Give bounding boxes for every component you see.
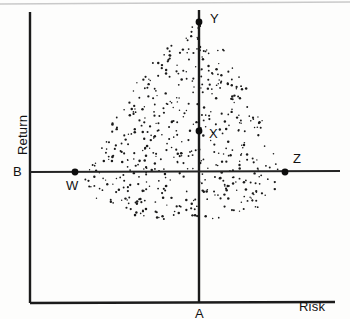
scatter-point: [190, 31, 192, 33]
scatter-point: [129, 114, 132, 117]
scatter-point: [203, 119, 205, 121]
scatter-point: [116, 117, 118, 119]
scatter-point: [182, 162, 184, 164]
scatter-point: [134, 108, 135, 109]
scatter-point: [89, 169, 90, 170]
scatter-point: [95, 163, 96, 164]
scatter-point: [185, 209, 187, 211]
scatter-point: [105, 152, 107, 154]
scatter-point: [116, 126, 118, 128]
scatter-point: [207, 87, 209, 89]
scatter-point: [169, 57, 171, 59]
scatter-point: [205, 190, 208, 193]
scatter-point: [204, 215, 207, 218]
scatter-point: [142, 150, 143, 151]
scatter-point: [168, 126, 170, 128]
scatter-point: [176, 205, 178, 207]
scatter-point: [130, 108, 133, 111]
scatter-point: [144, 200, 146, 202]
scatter-point: [194, 214, 197, 217]
scatter-point: [213, 151, 215, 153]
scatter-point: [164, 189, 166, 191]
scatter-point: [170, 197, 172, 199]
scatter-point: [165, 72, 167, 74]
scatter-point: [174, 211, 176, 213]
scatter-point: [257, 134, 259, 136]
scatter-point: [118, 189, 120, 191]
point-label-z: Z: [293, 152, 301, 165]
scatter-dot-cloud: [84, 25, 278, 220]
scatter-point: [227, 197, 230, 200]
scatter-point: [210, 111, 212, 113]
scatter-point: [141, 125, 143, 127]
scatter-point: [140, 201, 142, 203]
scatter-point: [145, 166, 147, 168]
scatter-point: [90, 186, 92, 188]
scatter-point: [105, 179, 106, 180]
scatter-point: [252, 158, 254, 160]
scatter-point: [136, 203, 138, 205]
scatter-point: [93, 176, 95, 178]
scatter-point: [169, 54, 172, 57]
scatter-point: [102, 189, 104, 191]
scatter-point: [221, 160, 223, 162]
scatter-point: [134, 214, 137, 217]
scatter-point: [217, 194, 219, 196]
scatter-point: [225, 161, 227, 163]
scatter-point: [179, 205, 181, 207]
scatter-point: [121, 143, 123, 145]
scatter-point: [127, 190, 129, 192]
scatter-point: [164, 92, 166, 94]
scatter-point: [255, 206, 257, 208]
scatter-point: [108, 159, 109, 160]
point-markers: [72, 19, 289, 176]
scatter-point: [163, 218, 165, 220]
scatter-point: [246, 153, 248, 155]
scatter-point: [127, 166, 129, 168]
scatter-point: [245, 180, 247, 182]
scatter-point: [238, 164, 240, 166]
scatter-point: [232, 67, 234, 69]
scatter-point: [176, 134, 178, 136]
scatter-point: [187, 39, 189, 41]
scatter-point: [169, 50, 171, 52]
scatter-point: [203, 106, 205, 108]
scatter-point: [192, 168, 194, 170]
scatter-point: [252, 117, 254, 119]
scatter-point: [240, 120, 242, 122]
scatter-point: [257, 116, 258, 117]
scatter-point: [179, 155, 181, 157]
scatter-point: [222, 180, 224, 182]
scatter-point: [150, 139, 152, 141]
scatter-point: [130, 133, 132, 135]
scatter-point: [155, 153, 157, 155]
scatter-point: [173, 136, 175, 138]
scatter-point: [205, 126, 207, 128]
scatter-point: [144, 87, 146, 89]
scatter-point: [172, 107, 173, 108]
scatter-point: [254, 127, 256, 129]
scatter-point: [110, 201, 112, 203]
scatter-point: [206, 49, 207, 50]
scatter-point: [181, 155, 182, 156]
scatter-point: [166, 204, 167, 205]
scatter-point: [125, 207, 127, 209]
scatter-point: [265, 165, 267, 167]
scatter-point: [128, 134, 129, 135]
scatter-point: [158, 115, 160, 117]
scatter-point: [93, 185, 95, 187]
scatter-point: [208, 115, 210, 117]
scatter-point: [155, 156, 156, 157]
scatter-point: [157, 62, 160, 65]
scatter-point: [243, 144, 246, 147]
scatter-point: [173, 214, 175, 216]
scatter-point: [196, 205, 198, 207]
scatter-point: [275, 163, 277, 165]
scatter-point: [96, 198, 97, 199]
scatter-point: [250, 182, 252, 184]
scatter-point: [238, 129, 240, 131]
scatter-point: [241, 145, 242, 146]
scatter-point: [243, 208, 245, 210]
scatter-point: [178, 97, 180, 99]
scatter-point: [200, 76, 202, 78]
